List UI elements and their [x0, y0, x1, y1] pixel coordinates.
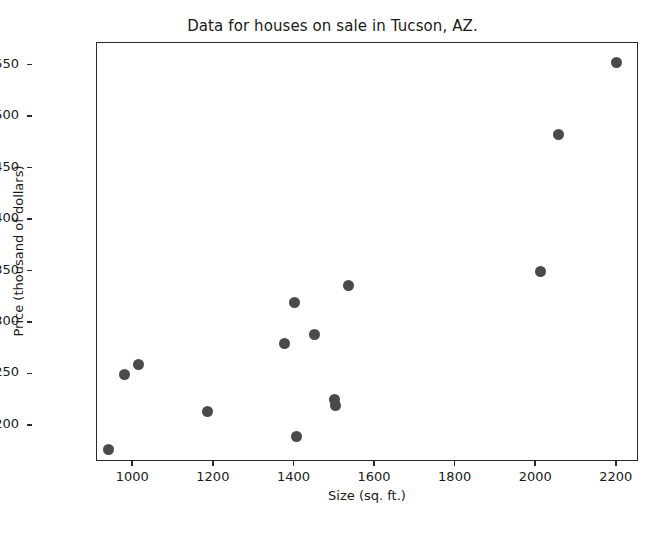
scatter-point	[330, 400, 341, 411]
y-tick-mark-icon	[27, 218, 32, 220]
x-tick-mark-icon	[454, 461, 456, 466]
x-tick-label: 1400	[277, 469, 310, 484]
x-tick-label: 2000	[519, 469, 552, 484]
scatter-point	[611, 57, 622, 68]
x-tick-mark-icon	[373, 461, 375, 466]
y-tick-label: 350	[0, 262, 19, 277]
x-tick-label: 1000	[116, 469, 149, 484]
scatter-point	[119, 369, 130, 380]
scatter-point	[289, 297, 300, 308]
scatter-point	[103, 444, 114, 455]
x-tick-label: 1600	[358, 469, 391, 484]
x-tick-label: 1800	[438, 469, 471, 484]
x-axis-label: Size (sq. ft.)	[328, 488, 406, 503]
y-tick-label: 500	[0, 107, 19, 122]
y-tick-label: 550	[0, 56, 19, 71]
scatter-points-layer	[97, 43, 637, 460]
scatter-point	[291, 431, 302, 442]
y-tick-label: 400	[0, 210, 19, 225]
y-tick-mark-icon	[27, 167, 32, 169]
chart-title: Data for houses on sale in Tucson, AZ.	[0, 17, 665, 35]
x-tick-mark-icon	[293, 461, 295, 466]
y-tick-mark-icon	[27, 424, 32, 426]
y-tick-label: 450	[0, 159, 19, 174]
y-tick-mark-icon	[27, 270, 32, 272]
scatter-point	[309, 329, 320, 340]
x-tick-mark-icon	[131, 461, 133, 466]
y-tick-label: 300	[0, 313, 19, 328]
x-tick-mark-icon	[212, 461, 214, 466]
scatter-point	[202, 406, 213, 417]
y-tick-mark-icon	[27, 64, 32, 66]
scatter-point	[279, 338, 290, 349]
y-tick-mark-icon	[27, 115, 32, 117]
scatter-point	[343, 280, 354, 291]
y-tick-mark-icon	[27, 373, 32, 375]
plot-area	[96, 42, 638, 461]
x-tick-mark-icon	[615, 461, 617, 466]
scatter-point	[133, 359, 144, 370]
y-tick-label: 250	[0, 364, 19, 379]
y-tick-label: 200	[0, 416, 19, 431]
scatter-point	[553, 129, 564, 140]
y-axis-label: Price (thousand of dollars)	[11, 165, 26, 336]
x-tick-label: 1200	[196, 469, 229, 484]
x-tick-label: 2200	[599, 469, 632, 484]
x-tick-mark-icon	[534, 461, 536, 466]
scatter-point	[535, 266, 546, 277]
y-tick-mark-icon	[27, 321, 32, 323]
scatter-chart-figure: Data for houses on sale in Tucson, AZ. P…	[0, 0, 665, 533]
